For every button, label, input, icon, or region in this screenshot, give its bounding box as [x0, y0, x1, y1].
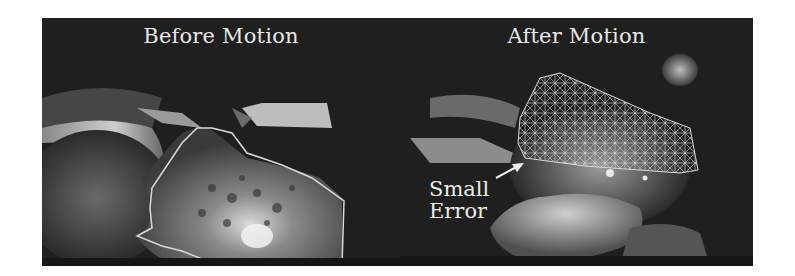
before-motion-panel: Before Motion [42, 18, 400, 266]
before-motion-image [42, 18, 400, 266]
panel-title: After Motion [400, 24, 753, 48]
annotation-line: Error [429, 200, 489, 222]
after-motion-panel: After Motion Small Error [400, 18, 753, 266]
panel-title: Before Motion [42, 24, 400, 48]
small-error-annotation: Small Error [429, 178, 489, 222]
annotation-line: Small [429, 178, 489, 200]
figure-panel: Before Motion [42, 18, 753, 266]
after-motion-image [400, 18, 753, 266]
